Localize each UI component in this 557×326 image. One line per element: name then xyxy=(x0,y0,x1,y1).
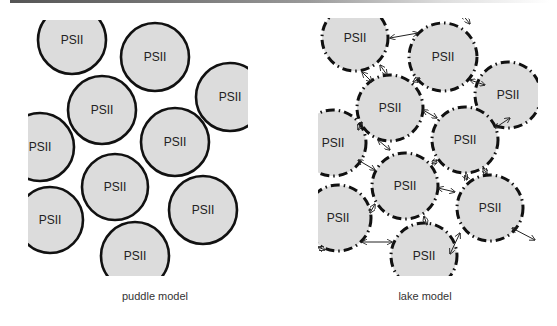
psii-complex: PSII xyxy=(196,63,264,131)
double-arrow-icon xyxy=(465,175,467,180)
psii-label: PSII xyxy=(322,136,345,150)
psii-complex: PSII xyxy=(457,175,523,241)
psii-label: PSII xyxy=(497,88,520,102)
psii-complex: PSII xyxy=(372,153,438,219)
double-arrow-icon xyxy=(370,204,375,213)
psii-complex: PSII xyxy=(432,107,498,173)
psii-label: PSII xyxy=(479,201,502,215)
psii-label: PSII xyxy=(327,211,350,225)
psii-label: PSII xyxy=(379,101,402,115)
psii-complex: PSII xyxy=(82,154,148,220)
psii-label: PSII xyxy=(344,31,367,45)
psii-label: PSII xyxy=(394,179,417,193)
double-arrow-icon xyxy=(423,110,437,118)
psii-label: PSII xyxy=(39,213,62,227)
psii-label: PSII xyxy=(61,33,84,47)
psii-label: PSII xyxy=(104,180,127,194)
psii-label: PSII xyxy=(454,133,477,147)
psii-complex: PSII xyxy=(409,23,477,91)
psii-complex: PSII xyxy=(68,76,136,144)
psii-complex: PSII xyxy=(141,108,209,176)
double-arrow-icon xyxy=(380,65,387,75)
psii-complex: PSII xyxy=(322,5,388,71)
psii-complex: PSII xyxy=(101,222,169,290)
psii-label: PSII xyxy=(164,135,187,149)
double-arrow-icon xyxy=(462,14,470,24)
psii-complex: PSII xyxy=(305,185,371,251)
psii-label: PSII xyxy=(219,90,242,104)
double-arrow-icon xyxy=(362,72,372,82)
psii-complex: PSII xyxy=(300,110,366,176)
psii-label: PSII xyxy=(413,249,436,263)
psii-diagram: PSIIPSIIPSIIPSIIPSIIPSIIPSIIPSIIPSIIPSII… xyxy=(0,0,557,326)
psii-complex: PSII xyxy=(121,23,189,91)
puddle-model-caption: puddle model xyxy=(55,290,255,302)
lake-model-panel: PSIIPSIIPSIIPSIIPSIIPSIIPSIIPSIIPSIIPSII xyxy=(300,5,541,289)
double-arrow-icon xyxy=(438,188,455,192)
double-arrow-icon xyxy=(358,160,375,170)
psii-complex: PSII xyxy=(391,223,457,289)
psii-complex: PSII xyxy=(169,176,237,244)
psii-label: PSII xyxy=(91,103,114,117)
double-arrow-icon xyxy=(512,228,535,240)
psii-complex: PSII xyxy=(6,113,74,181)
psii-label: PSII xyxy=(144,50,167,64)
psii-label: PSII xyxy=(192,203,215,217)
psii-complex: PSII xyxy=(357,75,423,141)
psii-complex: PSII xyxy=(17,187,83,253)
lake-model-caption: lake model xyxy=(325,290,525,302)
psii-complex: PSII xyxy=(38,6,106,74)
double-arrow-icon xyxy=(390,33,418,38)
double-arrow-icon xyxy=(483,168,487,174)
double-arrow-icon xyxy=(432,160,437,164)
psii-label: PSII xyxy=(432,50,455,64)
psii-label: PSII xyxy=(124,249,147,263)
puddle-model-panel: PSIIPSIIPSIIPSIIPSIIPSIIPSIIPSIIPSIIPSII xyxy=(6,6,264,290)
psii-label: PSII xyxy=(29,140,52,154)
